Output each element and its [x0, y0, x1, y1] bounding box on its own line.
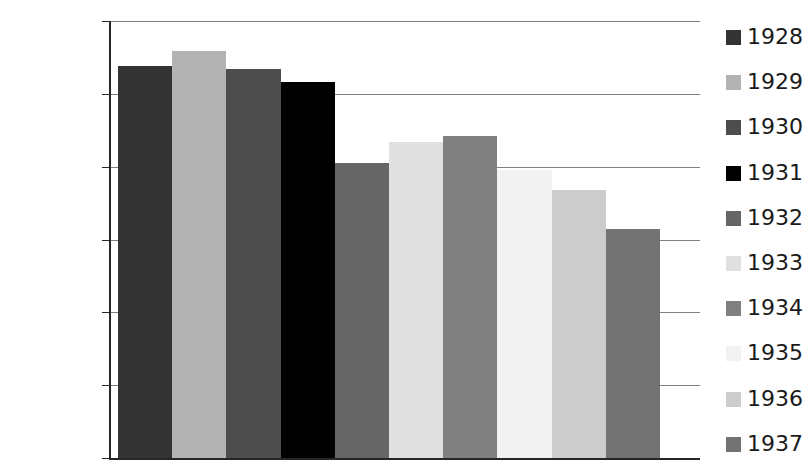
legend-item[interactable]: 1928: [726, 26, 803, 48]
legend-swatch-icon: [726, 437, 741, 452]
bar[interactable]: [118, 66, 172, 458]
legend-item[interactable]: 1929: [726, 71, 803, 93]
bar[interactable]: [226, 69, 281, 458]
bar[interactable]: [552, 190, 606, 458]
legend-item[interactable]: 1933: [726, 252, 803, 274]
bar[interactable]: [606, 229, 660, 458]
legend-item[interactable]: 1935: [726, 342, 803, 364]
legend-label: 1936: [747, 388, 803, 410]
legend-swatch-icon: [726, 75, 741, 90]
legend-label: 1937: [747, 433, 803, 455]
legend-item[interactable]: 1936: [726, 388, 803, 410]
bar[interactable]: [389, 142, 443, 458]
legend-swatch-icon: [726, 301, 741, 316]
legend-swatch-icon: [726, 211, 741, 226]
bar[interactable]: [443, 136, 497, 458]
legend-item[interactable]: 1930: [726, 116, 803, 138]
legend-label: 1933: [747, 252, 803, 274]
legend-label: 1932: [747, 207, 803, 229]
legend-item[interactable]: 1937: [726, 433, 803, 455]
x-axis-line: [109, 458, 700, 460]
legend-label: 1931: [747, 162, 803, 184]
bar[interactable]: [497, 170, 552, 458]
legend-item[interactable]: 1931: [726, 162, 803, 184]
gridline: [110, 21, 700, 22]
legend-swatch-icon: [726, 392, 741, 407]
bar[interactable]: [281, 82, 335, 458]
legend-label: 1930: [747, 116, 803, 138]
legend-label: 1934: [747, 297, 803, 319]
y-axis-line: [109, 21, 111, 460]
legend-item[interactable]: 1934: [726, 297, 803, 319]
legend-label: 1929: [747, 71, 803, 93]
legend-swatch-icon: [726, 346, 741, 361]
legend-label: 1935: [747, 342, 803, 364]
legend-swatch-icon: [726, 166, 741, 181]
bar[interactable]: [335, 163, 389, 458]
legend-swatch-icon: [726, 120, 741, 135]
bar[interactable]: [172, 51, 226, 458]
legend-item[interactable]: 1932: [726, 207, 803, 229]
bar-chart: 0123456 19281929193019311932193319341935…: [0, 0, 810, 469]
legend: 1928192919301931193219331934193519361937: [726, 0, 810, 469]
legend-label: 1928: [747, 26, 803, 48]
legend-swatch-icon: [726, 30, 741, 45]
legend-swatch-icon: [726, 256, 741, 271]
plot-area: 0123456: [0, 0, 710, 469]
